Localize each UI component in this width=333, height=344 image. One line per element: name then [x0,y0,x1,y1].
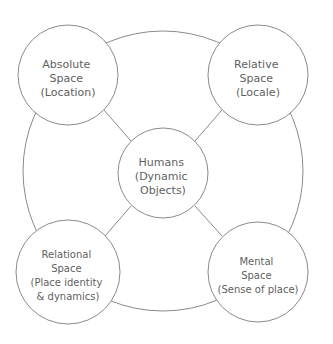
node-humans[interactable]: Humans (Dynamic Objects) [118,128,208,218]
node-relative-space-label: Relative Space (Locale) [234,58,282,99]
node-relative-space[interactable]: Relative Space (Locale) [208,25,308,125]
connector-relative-to-humans [195,110,222,141]
node-humans-label: Humans (Dynamic Objects) [135,156,191,197]
node-relational-space[interactable]: Relational Space (Place identity & dynam… [16,220,120,324]
spatial-concepts-diagram: Absolute Space (Location) Relative Space… [0,0,333,344]
node-absolute-space[interactable]: Absolute Space (Location) [18,25,118,125]
node-mental-space[interactable]: Mental Space (Sense of place) [208,222,308,322]
connector-absolute-to-humans [104,110,131,141]
diagram-canvas: Absolute Space (Location) Relative Space… [0,0,333,344]
connector-mental-to-humans [195,206,222,236]
connector-relational-to-humans [105,206,131,236]
